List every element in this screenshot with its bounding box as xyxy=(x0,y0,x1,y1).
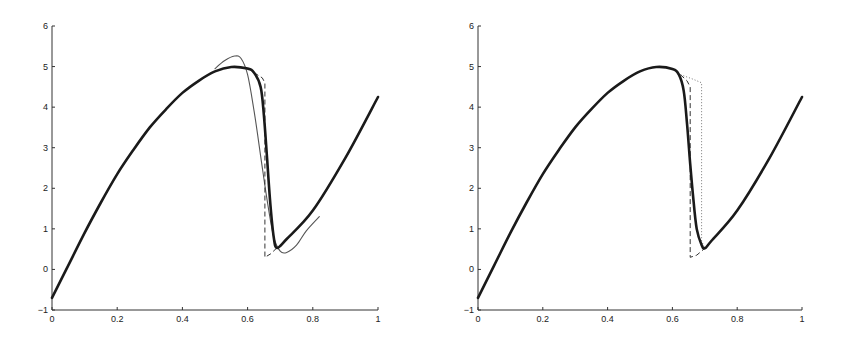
y-tick-label: 1 xyxy=(43,224,48,234)
x-tick-label: 1 xyxy=(375,314,380,324)
y-tick-label: −1 xyxy=(464,305,474,315)
x-tick-label: 0 xyxy=(475,314,480,324)
y-tick-label: 4 xyxy=(43,102,48,112)
x-tick-label: 0.4 xyxy=(176,314,189,324)
y-tick-label: 5 xyxy=(43,62,48,72)
y-tick-label: 2 xyxy=(43,183,48,193)
figure-canvas: −1012345600.20.40.60.81 −1012345600.20.4… xyxy=(0,0,847,347)
y-tick-label: 2 xyxy=(469,183,474,193)
y-tick-label: 0 xyxy=(469,264,474,274)
series-thick-solid xyxy=(478,67,802,298)
x-tick-label: 0.2 xyxy=(111,314,124,324)
y-tick-label: 5 xyxy=(469,62,474,72)
left-plot: −1012345600.20.40.60.81 xyxy=(38,21,381,324)
x-tick-label: 0.8 xyxy=(307,314,320,324)
x-tick-label: 0.8 xyxy=(731,314,744,324)
y-tick-label: 4 xyxy=(469,102,474,112)
x-tick-label: 0.4 xyxy=(601,314,614,324)
x-tick-label: 0 xyxy=(49,314,54,324)
x-tick-label: 0.2 xyxy=(537,314,550,324)
x-tick-label: 0.6 xyxy=(241,314,254,324)
y-tick-label: 6 xyxy=(43,21,48,31)
x-tick-label: 1 xyxy=(799,314,804,324)
y-tick-label: 3 xyxy=(469,143,474,153)
y-tick-label: 0 xyxy=(43,264,48,274)
y-tick-label: 6 xyxy=(469,21,474,31)
y-tick-label: −1 xyxy=(38,305,48,315)
right-plot: −1012345600.20.40.60.81 xyxy=(464,21,805,324)
series-thick-solid xyxy=(52,67,378,298)
x-tick-label: 0.6 xyxy=(666,314,679,324)
y-tick-label: 1 xyxy=(469,224,474,234)
y-tick-label: 3 xyxy=(43,143,48,153)
